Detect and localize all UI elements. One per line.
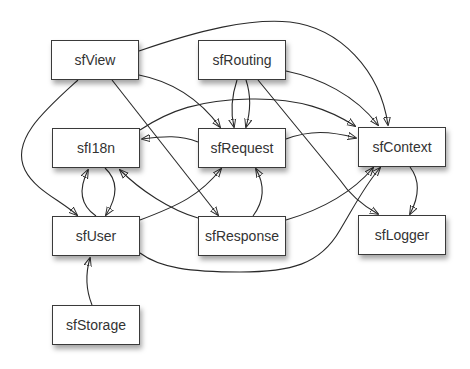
edge-sfuser-sfrequest [140,169,221,220]
node-label: sfContext [372,139,431,155]
edge-sfresponse-sfrequest [253,169,262,216]
node-sfresponse: sfResponse [198,216,286,256]
edge-sfrouting-sfcontext [286,71,378,125]
node-label: sfResponse [205,228,279,244]
node-sfcontext: sfContext [358,127,446,167]
node-sfstorage: sfStorage [52,305,140,345]
edge-sfcontext-sflogger [410,167,418,214]
edge-sfrequest-sfi18n [142,137,198,142]
edge-sfview-sfrequest [139,75,220,127]
edge-sfresponse-sfi18n [120,170,198,218]
node-label: sfRouting [212,52,271,68]
edge-sfrouting-sfrequest-1 [232,80,237,127]
node-sflogger: sfLogger [358,215,446,255]
node-label: sfUser [76,228,116,244]
edge-sfuser-sfi18n [82,170,96,216]
edge-sfresponse-sfcontext [286,168,373,220]
edge-sfi18n-sfcontext [140,99,355,130]
node-label: sfRequest [210,140,273,156]
node-label: sfView [75,52,116,68]
edge-sfi18n-sfuser [105,168,115,215]
node-sfi18n: sfI18n [52,128,140,168]
edge-sfrouting-sfrequest-2 [246,80,250,127]
edge-sfrequest-sfcontext [286,133,356,140]
node-sfrouting: sfRouting [198,40,286,80]
node-label: sfI18n [77,140,115,156]
node-sfview: sfView [51,40,139,80]
diagram-canvas: sfView sfRouting sfI18n sfRequest sfCont… [0,0,470,369]
node-sfrequest: sfRequest [198,128,286,168]
node-label: sfLogger [375,227,429,243]
node-sfuser: sfUser [52,216,140,256]
edge-sfstorage-sfuser [87,258,92,305]
node-label: sfStorage [66,317,126,333]
